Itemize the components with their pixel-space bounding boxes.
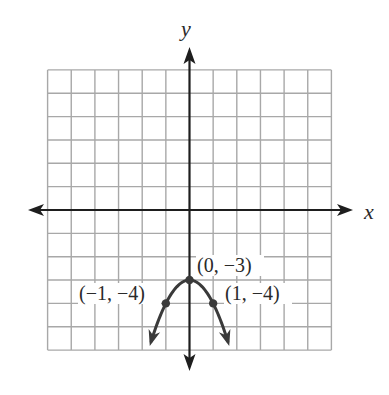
x-axis-label: x <box>363 199 374 224</box>
y-axis-label: y <box>179 16 191 41</box>
vertex-label: (0, −3) <box>197 254 252 277</box>
coordinate-plane: x y (0, −3) (−1, −4) (1, −4) <box>0 0 389 395</box>
right-point-label: (1, −4) <box>225 282 280 305</box>
axes <box>28 47 353 371</box>
data-point <box>185 276 193 284</box>
left-point-label: (−1, −4) <box>79 282 145 305</box>
data-point <box>209 299 217 307</box>
data-point <box>162 299 170 307</box>
